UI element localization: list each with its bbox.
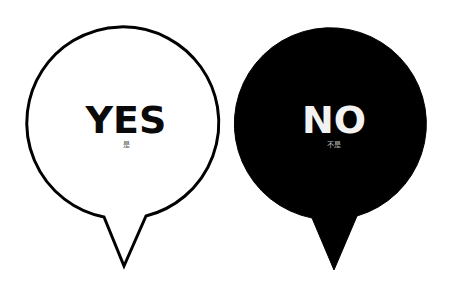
no-label: NO 不是 bbox=[254, 100, 414, 150]
no-title: NO bbox=[254, 100, 414, 140]
yes-subtitle: 是 bbox=[46, 140, 206, 150]
yes-label: YES 是 bbox=[46, 100, 206, 150]
no-subtitle: 不是 bbox=[254, 140, 414, 150]
yes-title: YES bbox=[46, 100, 206, 140]
